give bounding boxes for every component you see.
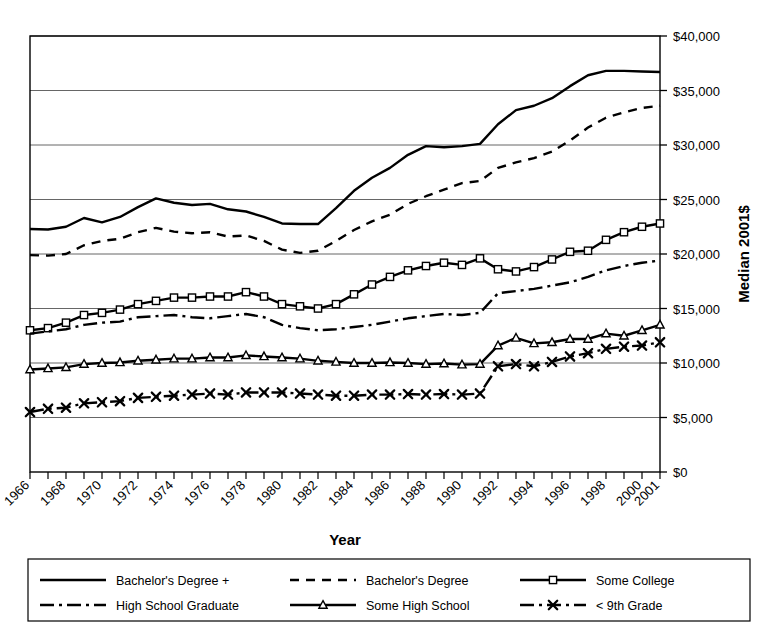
data-point-marker-square	[512, 268, 519, 275]
data-point-marker-square	[224, 293, 231, 300]
y-axis-tick-label: $15,000	[673, 302, 720, 317]
data-point-marker-square	[314, 305, 321, 312]
data-point-marker-square	[584, 247, 591, 254]
data-point-marker-square	[260, 293, 267, 300]
y-axis-title: Median 2001$	[735, 205, 752, 303]
data-point-marker-square	[350, 291, 357, 298]
y-axis-tick-label: $30,000	[673, 138, 720, 153]
data-point-marker-square	[116, 306, 123, 313]
data-point-marker-square	[296, 303, 303, 310]
legend-label: < 9th Grade	[596, 599, 662, 613]
data-point-marker-square	[98, 309, 105, 316]
data-point-marker-square	[152, 297, 159, 304]
data-point-marker-square	[549, 576, 556, 583]
y-axis-tick-label: $35,000	[673, 84, 720, 99]
y-axis-tick-label: $25,000	[673, 193, 720, 208]
data-point-marker-square	[242, 289, 249, 296]
legend-label: Some High School	[366, 599, 470, 613]
data-point-marker-square	[188, 294, 195, 301]
data-point-marker-square	[206, 293, 213, 300]
y-axis-tick-label: $10,000	[673, 356, 720, 371]
y-axis-tick-label: $5,000	[673, 411, 713, 426]
legend-label: Bachelor's Degree	[366, 574, 468, 588]
y-axis-tick-label: $20,000	[673, 247, 720, 262]
data-point-marker-square	[170, 294, 177, 301]
x-axis-title: Year	[329, 531, 361, 548]
chart-figure: $0$5,000$10,000$15,000$20,000$25,000$30,…	[0, 0, 780, 638]
data-point-marker-square	[476, 255, 483, 262]
data-point-marker-square	[62, 319, 69, 326]
data-point-marker-square	[386, 273, 393, 280]
data-point-marker-square	[602, 236, 609, 243]
legend-label: Some College	[596, 574, 675, 588]
data-point-marker-square	[332, 301, 339, 308]
data-point-marker-square	[530, 263, 537, 270]
figure-background	[0, 0, 780, 638]
legend-label: Bachelor's Degree +	[116, 574, 229, 588]
data-point-marker-square	[368, 281, 375, 288]
data-point-marker-square	[278, 301, 285, 308]
data-point-marker-square	[134, 301, 141, 308]
data-point-marker-square	[620, 229, 627, 236]
income-by-education-line-chart: $0$5,000$10,000$15,000$20,000$25,000$30,…	[0, 0, 780, 638]
data-point-marker-square	[80, 311, 87, 318]
data-point-marker-square	[548, 256, 555, 263]
data-point-marker-square	[494, 266, 501, 273]
data-point-marker-square	[404, 267, 411, 274]
data-point-marker-square	[656, 220, 663, 227]
y-axis-tick-label: $40,000	[673, 29, 720, 44]
legend-label: High School Graduate	[116, 599, 239, 613]
data-point-marker-square	[440, 259, 447, 266]
data-point-marker-square	[638, 223, 645, 230]
data-point-marker-square	[458, 261, 465, 268]
data-point-marker-square	[422, 262, 429, 269]
y-axis-tick-label: $0	[673, 465, 687, 480]
data-point-marker-square	[566, 248, 573, 255]
